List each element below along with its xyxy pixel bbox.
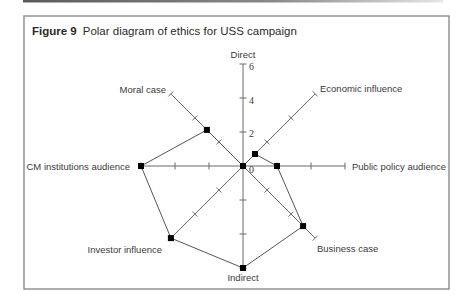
axis-label-investor-influence: Investor influence [88,244,162,255]
tick-label-4: 4 [249,95,254,106]
axis-label-public-policy-audience: Public policy audience [352,161,446,172]
data-point-public-policy-audience [274,163,280,169]
tick-label-0: 0 [249,164,254,175]
data-point-investor-influence [168,235,174,241]
data-point-cm-institutions-audience [138,163,144,169]
figure-caption: Polar diagram of ethics for USS campaign [83,25,297,37]
axis-label-moral-case: Moral case [120,84,166,95]
figure-label: Figure 9 [32,25,77,37]
axis-label-economic-influence: Economic influence [320,83,402,94]
axis-line-investor-influence [171,166,243,238]
data-point-direct [240,163,246,169]
axis-label-direct: Direct [231,49,256,60]
data-point-business-case [300,223,306,229]
tick-label-2: 2 [249,128,254,139]
axis-label-indirect: Indirect [227,272,259,283]
data-point-economic-influence [252,151,258,157]
axis-label-cm-institutions-audience: CM institutions audience [27,161,131,172]
data-series [138,127,306,271]
data-point-indirect [240,265,246,271]
figure-title: Figure 9Polar diagram of ethics for USS … [32,25,297,37]
series-polygon [141,130,303,268]
polar-chart: Figure 9Polar diagram of ethics for USS … [0,0,473,304]
tick-label-6: 6 [249,61,254,72]
axis-label-business-case: Business case [317,243,378,254]
top-rule [23,0,443,3]
data-point-moral-case [204,127,210,133]
